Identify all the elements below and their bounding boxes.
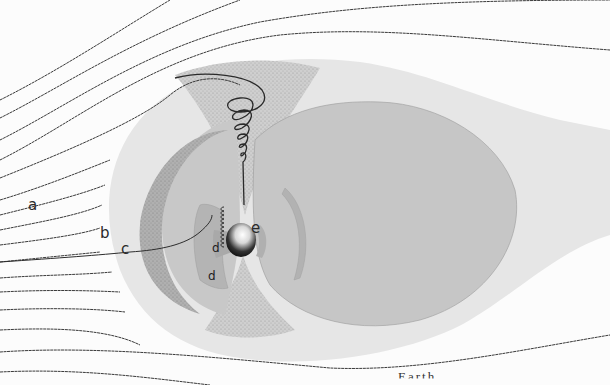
magnetosphere-diagram: a b c d d e Earth ... (0, 0, 610, 385)
label-b: b (100, 224, 110, 242)
label-d-upper: d (212, 241, 220, 255)
label-e: e (251, 219, 260, 237)
label-a: a (28, 196, 37, 214)
label-d-lower: d (208, 269, 216, 283)
diagram-canvas: a b c d d e (0, 0, 610, 385)
label-c: c (121, 240, 129, 258)
